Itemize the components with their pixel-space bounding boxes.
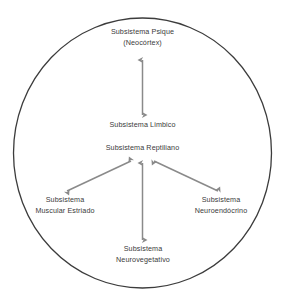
node-label-limbico-line-1: Subsistema Limbico <box>62 120 223 131</box>
node-label-neuroendocrino: Subsistema Neuroendócrino <box>168 195 274 216</box>
connector-reptiliano-neuroendocrino <box>154 161 218 191</box>
node-label-muscular-estriado: Subsistema Muscular Estriado <box>12 195 118 216</box>
node-label-psique: Subsistema Psique (Neocórtex) <box>62 27 223 48</box>
node-label-psique-line-2: (Neocórtex) <box>62 38 223 49</box>
node-label-muscular-estriado-line-1: Subsistema <box>12 195 118 206</box>
node-label-reptiliano-line-1: Subsistema Reptiliano <box>62 143 223 154</box>
connector-reptiliano-muscular-estriado <box>67 161 131 191</box>
node-label-muscular-estriado-line-2: Muscular Estriado <box>12 206 118 217</box>
node-label-neuroendocrino-line-1: Subsistema <box>168 195 274 206</box>
node-label-neuroendocrino-line-2: Neuroendócrino <box>168 206 274 217</box>
node-label-neurovegetativo-line-1: Subsistema <box>90 244 196 255</box>
diagram-canvas: Subsistema Psique (Neocórtex) Subsistema… <box>0 0 285 299</box>
node-label-psique-line-1: Subsistema Psique <box>62 27 223 38</box>
node-label-limbico: Subsistema Limbico <box>62 120 223 131</box>
node-label-reptiliano: Subsistema Reptiliano <box>62 143 223 154</box>
node-label-neurovegetativo-line-2: Neurovegetativo <box>90 255 196 266</box>
node-label-neurovegetativo: Subsistema Neurovegetativo <box>90 244 196 265</box>
